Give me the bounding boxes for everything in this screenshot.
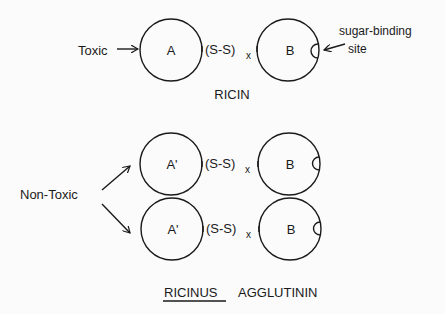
site-label-line2: site [348, 42, 367, 56]
bond-sub-top: x [245, 164, 250, 175]
bond-sub-bottom: x [246, 229, 251, 240]
sugar-binding-site-icon [311, 44, 318, 58]
chain-b-top: B [286, 157, 295, 172]
bond-bottom: (S-S) [206, 221, 236, 236]
ricin-diagram: Toxic A B (S-S) x sugar-binding site RIC… [0, 0, 445, 314]
toxic-label: Toxic [78, 43, 108, 58]
non-toxic-arrow-bottom [102, 204, 130, 233]
chain-b-bottom: B [287, 222, 296, 237]
disulfide-bond-label: (S-S) [205, 42, 235, 57]
agglutinin-title-part1: RICINUS [164, 285, 218, 300]
non-toxic-arrow-top [102, 166, 130, 190]
chain-b-label: B [286, 43, 295, 58]
site-label-line1: sugar-binding [339, 24, 412, 38]
non-toxic-label: Non-Toxic [20, 187, 78, 202]
bond-subscript: x [246, 50, 251, 61]
chain-a-label: A [167, 43, 176, 58]
diagram-canvas: Toxic A B (S-S) x sugar-binding site RIC… [0, 0, 445, 314]
site-arrow [324, 44, 345, 50]
chain-a-prime-bottom: A' [167, 222, 178, 237]
bond-top: (S-S) [205, 156, 235, 171]
chain-a-prime-top: A' [166, 157, 177, 172]
agglutinin-title-part2: AGGLUTININ [238, 285, 317, 300]
ricin-title: RICIN [214, 87, 249, 102]
